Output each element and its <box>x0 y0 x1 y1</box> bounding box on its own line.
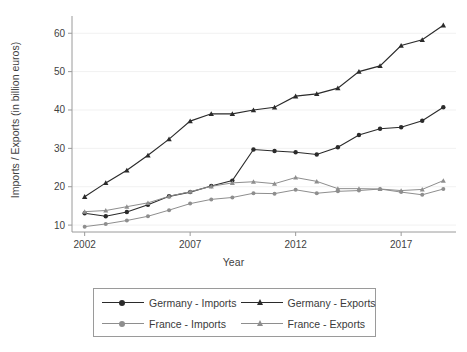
series-line <box>85 178 444 212</box>
y-axis-tick-label: 10 <box>54 220 66 231</box>
data-point <box>293 150 297 154</box>
data-point <box>441 187 445 191</box>
legend-item-france-exports[interactable]: France - Exports <box>235 318 374 330</box>
data-point <box>378 127 382 131</box>
x-axis-tick-label: 2002 <box>74 239 97 250</box>
legend-label: France - Exports <box>288 318 366 330</box>
series-germany-exports <box>82 23 446 199</box>
germany-imports-marker-icon <box>102 297 144 309</box>
france-imports-marker-icon <box>102 318 144 330</box>
data-point <box>125 218 129 222</box>
data-point <box>441 178 446 182</box>
data-point <box>273 192 277 196</box>
x-axis-tick-label: 2007 <box>179 239 202 250</box>
legend-item-france-imports[interactable]: France - Imports <box>96 318 235 330</box>
data-point <box>167 208 171 212</box>
data-point <box>272 149 276 153</box>
legend-row: Germany - Imports Germany - Exports <box>96 292 373 313</box>
data-point <box>146 214 150 218</box>
x-axis-tick-label: 2017 <box>390 239 413 250</box>
legend-label: Germany - Exports <box>288 297 376 309</box>
data-point <box>104 222 108 226</box>
x-axis-tick-label: 2012 <box>285 239 308 250</box>
legend-item-germany-imports[interactable]: Germany - Imports <box>96 297 235 309</box>
data-point <box>420 119 424 123</box>
series-france-exports <box>82 175 446 214</box>
y-axis-tick-label: 40 <box>54 104 66 115</box>
series-france-imports <box>83 187 446 229</box>
data-point <box>315 152 319 156</box>
data-point <box>251 147 255 151</box>
chart-legend: Germany - Imports Germany - Exports Fran… <box>93 288 376 337</box>
x-axis-label: Year <box>0 256 467 268</box>
data-point <box>336 145 340 149</box>
y-axis-tick-label: 20 <box>54 181 66 192</box>
data-point <box>441 23 446 28</box>
data-point <box>294 188 298 192</box>
data-point <box>315 191 319 195</box>
legend-label: France - Imports <box>149 318 226 330</box>
germany-exports-marker-icon <box>241 297 283 309</box>
data-point <box>399 125 403 129</box>
data-point <box>125 210 129 214</box>
france-exports-marker-icon <box>241 318 283 330</box>
series-line <box>85 25 444 196</box>
y-axis-tick-label: 60 <box>54 28 66 39</box>
y-axis-tick-label: 30 <box>54 143 66 154</box>
data-point <box>103 180 108 185</box>
data-point <box>188 202 192 206</box>
line-chart: Imports / Exports (in billion euros) 102… <box>0 0 467 352</box>
data-point <box>230 195 234 199</box>
data-point <box>357 133 361 137</box>
series-germany-imports <box>82 105 445 218</box>
legend-row: France - Imports France - Exports <box>96 313 373 334</box>
data-point <box>420 193 424 197</box>
legend-item-germany-exports[interactable]: Germany - Exports <box>235 297 374 309</box>
data-point <box>251 191 255 195</box>
data-point <box>441 105 445 109</box>
data-point <box>104 214 108 218</box>
data-point <box>209 197 213 201</box>
y-axis-tick-label: 50 <box>54 66 66 77</box>
legend-label: Germany - Imports <box>149 297 237 309</box>
data-point <box>83 225 87 229</box>
